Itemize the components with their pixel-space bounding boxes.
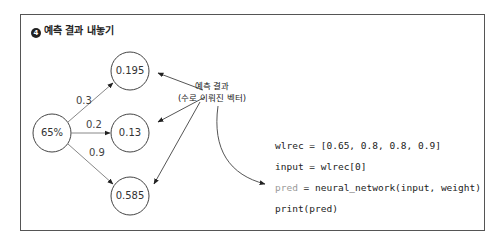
weight-label-1: 0.3 xyxy=(76,95,92,106)
code-pred-var: pred xyxy=(275,182,298,193)
output-node-2-label: 0.13 xyxy=(105,127,155,138)
code-block: wlrec = [0.65, 0.8, 0.8, 0.9]input = wlr… xyxy=(275,135,481,219)
output-node-3-label: 0.585 xyxy=(105,190,155,201)
code-line-3-rest: = neural_network(input, weight) xyxy=(298,182,481,193)
weight-label-2: 0.2 xyxy=(86,119,102,130)
callout-arrow-3 xyxy=(154,102,200,184)
callout-arrow-code xyxy=(217,106,265,184)
code-line-1: wlrec = [0.65, 0.8, 0.8, 0.9] xyxy=(275,135,481,156)
code-line-4: print(pred) xyxy=(275,198,481,219)
code-line-3: pred = neural_network(input, weight) xyxy=(275,177,481,198)
prediction-callout: 예측 결과 (수로 이뤄진 벡터) xyxy=(157,80,267,104)
callout-line-2: (수로 이뤄진 벡터) xyxy=(157,92,267,104)
input-node-label: 65% xyxy=(27,127,77,138)
code-line-2: input = wlrec[0] xyxy=(275,156,481,177)
output-node-1-label: 0.195 xyxy=(105,65,155,76)
weight-label-3: 0.9 xyxy=(89,147,105,158)
callout-line-1: 예측 결과 xyxy=(157,80,267,92)
